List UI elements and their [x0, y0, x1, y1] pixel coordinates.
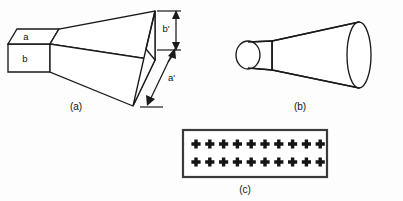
panel-conical-horn: (b) [236, 22, 371, 112]
arrowhead-a-prime-lower [146, 95, 155, 106]
label-b: b [22, 53, 27, 64]
array-panel-border [183, 130, 327, 177]
antenna-types-figure: b' a' a b (a) [0, 0, 403, 201]
caption-b: (b) [294, 101, 306, 112]
throat-circular-opening [236, 41, 260, 69]
caption-c: (c) [239, 184, 251, 195]
figure-canvas: b' a' a b (a) [0, 0, 403, 201]
label-a: a [23, 31, 29, 42]
panel-pyramidal-horn: b' a' a b (a) [8, 10, 181, 112]
waveguide-front-face [8, 44, 50, 72]
label-b-prime: b' [162, 23, 169, 34]
label-a-prime: a' [168, 72, 175, 83]
panel-slot-array: (c) [183, 130, 327, 195]
caption-a: (a) [70, 101, 82, 112]
aperture-circular-opening [347, 22, 371, 88]
